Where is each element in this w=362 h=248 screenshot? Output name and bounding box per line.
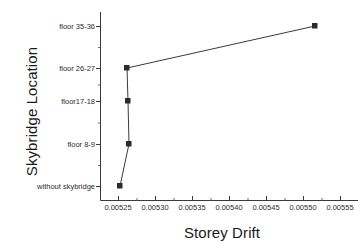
y-major-ticks [96, 27, 101, 187]
plot-canvas [0, 0, 362, 248]
data-point-marker [117, 183, 123, 189]
data-point-marker [125, 98, 131, 104]
data-point-marker [126, 141, 132, 147]
data-point-marker [124, 65, 130, 71]
data-point-marker [312, 23, 318, 29]
chart-figure: Skybridge Location Storey Drift floor 35… [0, 0, 362, 248]
data-series-line [120, 26, 315, 186]
x-major-ticks [119, 196, 341, 201]
